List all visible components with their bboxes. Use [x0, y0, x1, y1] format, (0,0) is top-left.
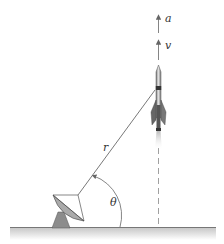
ground: [10, 228, 216, 241]
radar-dish: [52, 195, 84, 228]
rocket: [151, 65, 166, 150]
angle-label: θ: [110, 197, 117, 208]
acceleration-label: a: [165, 13, 172, 24]
velocity-label: v: [165, 40, 171, 51]
angle-arc-theta: [94, 176, 122, 227]
range-label: r: [103, 142, 108, 153]
range-line-r: [78, 90, 155, 195]
